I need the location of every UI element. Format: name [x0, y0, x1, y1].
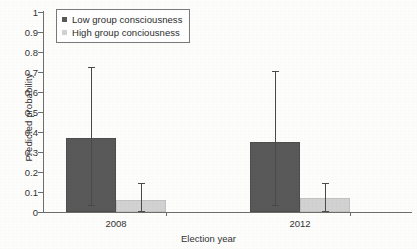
- y-tick-label: 0.9: [0, 27, 40, 38]
- y-tick-label: 0.4: [0, 127, 40, 138]
- y-axis-ticklabels: 00.10.20.30.40.50.60.70.80.91: [0, 0, 40, 249]
- x-axis-line: [43, 212, 412, 213]
- y-tick-mark: [38, 92, 43, 93]
- y-tick-mark: [38, 132, 43, 133]
- y-tick-mark: [38, 212, 43, 213]
- y-tick-label: 0.6: [0, 87, 40, 98]
- error-cap-lower: [138, 211, 145, 212]
- y-tick-mark: [38, 152, 43, 153]
- error-cap-upper: [138, 183, 145, 184]
- y-tick-mark: [38, 12, 43, 13]
- y-tick-mark: [38, 192, 43, 193]
- x-tick-mark: [166, 212, 167, 216]
- error-bar-2008-low: [91, 68, 92, 206]
- x-tick-label: 2012: [289, 218, 310, 229]
- x-tick-label: 2008: [105, 218, 126, 229]
- chart-legend: Low group consciousness High group conci…: [56, 9, 190, 43]
- x-tick-mark: [350, 212, 351, 216]
- error-bar-2012-low: [275, 72, 276, 206]
- legend-swatch-low-icon: [62, 17, 67, 22]
- x-axis-title: Election year: [0, 233, 417, 244]
- error-cap-upper: [88, 67, 95, 68]
- error-cap-upper: [322, 183, 329, 184]
- y-tick-label: 0: [0, 207, 40, 218]
- y-tick-mark: [38, 112, 43, 113]
- y-tick-label: 0.8: [0, 47, 40, 58]
- y-tick-label: 1: [0, 7, 40, 18]
- error-cap-lower: [88, 205, 95, 206]
- error-bar-2012-high: [325, 184, 326, 212]
- legend-label-high: High group conciousness: [72, 27, 180, 38]
- legend-item-high: High group conciousness: [62, 26, 182, 39]
- y-tick-label: 0.5: [0, 107, 40, 118]
- error-cap-lower: [322, 211, 329, 212]
- y-tick-label: 0.1: [0, 187, 40, 198]
- legend-label-low: Low group consciousness: [72, 14, 182, 25]
- y-tick-mark: [38, 72, 43, 73]
- y-tick-mark: [38, 32, 43, 33]
- y-tick-mark: [38, 52, 43, 53]
- chart-figure: Predicted probability 00.10.20.30.40.50.…: [0, 0, 417, 249]
- y-tick-label: 0.7: [0, 67, 40, 78]
- error-cap-upper: [272, 71, 279, 72]
- legend-item-low: Low group consciousness: [62, 13, 182, 26]
- y-tick-label: 0.3: [0, 147, 40, 158]
- legend-swatch-high-icon: [62, 30, 67, 35]
- error-bar-2008-high: [141, 184, 142, 212]
- error-cap-lower: [272, 205, 279, 206]
- y-tick-label: 0.2: [0, 167, 40, 178]
- y-tick-mark: [38, 172, 43, 173]
